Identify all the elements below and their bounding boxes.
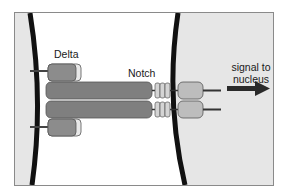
notch-label: Notch: [128, 67, 155, 79]
signal-label-line1: signal to: [226, 61, 276, 73]
notch-receptor-bottom: [46, 101, 221, 118]
signal-to-nucleus-label: signal to nucleus: [226, 61, 276, 85]
signal-label-line2: nucleus: [226, 73, 276, 85]
notch-receptor-top: [46, 82, 221, 99]
delta-notch-diagram: [0, 0, 287, 196]
delta-label: Delta: [54, 48, 79, 60]
